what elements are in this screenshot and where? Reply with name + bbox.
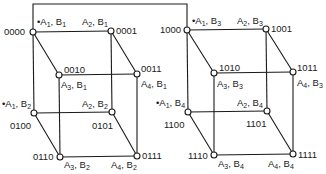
b-index: 1 xyxy=(104,21,108,28)
node-0110 xyxy=(57,154,63,160)
right-cube-edges xyxy=(187,29,293,155)
edge-1000-1001 xyxy=(187,29,266,30)
b-index: 1 xyxy=(163,83,167,90)
code-label-0111: 0111 xyxy=(142,151,162,161)
code-label-0011: 0011 xyxy=(141,64,161,74)
hypercube-diagram: 0000 0001 0010 0011 0100 0101 0110 0111 … xyxy=(0,0,326,174)
edge-0000-0010 xyxy=(33,32,59,75)
code-label-1110: 1110 xyxy=(188,151,208,161)
edge-0101-0111 xyxy=(112,112,137,156)
edge-1100-1101 xyxy=(188,111,267,112)
code-label-1101: 1101 xyxy=(246,119,266,129)
code-label-1111: 1111 xyxy=(298,150,317,160)
edge-1100-1110 xyxy=(188,112,214,155)
b-index: 2 xyxy=(86,164,90,171)
b-index: 3 xyxy=(217,20,221,27)
b-index: 4 xyxy=(290,163,294,170)
state-label-a3-b2: A3, B2 xyxy=(64,160,90,170)
edge-1000-1100 xyxy=(187,30,188,112)
code-label-0101: 0101 xyxy=(92,121,113,131)
edge-0001-0011 xyxy=(111,31,137,74)
code-label-0001: 0001 xyxy=(116,26,137,36)
node-1101 xyxy=(264,108,270,114)
edge-1000-1010 xyxy=(187,30,214,73)
code-label-1000: 1000 xyxy=(160,25,181,35)
b-index: 4 xyxy=(259,102,263,109)
state-label-a3-b3: A3, B3 xyxy=(217,79,243,89)
state-label-a3-b4: A3, B4 xyxy=(218,159,244,169)
edge-1110-1111 xyxy=(214,154,293,155)
edge-0010-0110 xyxy=(59,75,60,157)
node-0000 xyxy=(30,29,36,35)
node-0111 xyxy=(134,153,140,159)
b-index: 4 xyxy=(240,163,244,170)
code-label-0110: 0110 xyxy=(33,152,53,162)
node-0100 xyxy=(31,110,37,116)
node-0011 xyxy=(134,71,140,77)
state-label-a2-b4: A2, B4 xyxy=(237,98,263,108)
node-1100 xyxy=(185,109,191,115)
state-label-a2-b2: A2, B2 xyxy=(82,99,108,109)
code-label-1010: 1010 xyxy=(219,63,240,73)
state-label-a1-b2: •A1, B2 xyxy=(2,99,31,109)
state-label-a4-b2: A4, B2 xyxy=(111,160,137,170)
state-label-a1-b3: •A1, B3 xyxy=(192,16,221,26)
node-0101 xyxy=(109,109,115,115)
b-index: 2 xyxy=(27,103,31,110)
b-index: 2 xyxy=(133,164,137,171)
node-1000 xyxy=(184,27,190,33)
state-label-a2-b3: A2, B3 xyxy=(237,16,263,26)
edge-0000-0100 xyxy=(33,32,34,113)
edge-0000-0001 xyxy=(33,31,111,32)
state-label-a3-b1: A3, B1 xyxy=(61,80,87,90)
state-label-a4-b4: A4, B4 xyxy=(268,159,294,169)
code-label-1001: 1001 xyxy=(271,24,292,34)
node-1001 xyxy=(263,26,269,32)
code-label-1011: 1011 xyxy=(297,63,317,73)
code-label-1100: 1100 xyxy=(164,120,184,130)
b-index: 3 xyxy=(239,83,243,90)
b-index: 3 xyxy=(319,82,323,89)
edge-0001-0101 xyxy=(111,31,112,112)
code-label-0100: 0100 xyxy=(10,121,31,131)
code-label-0010: 0010 xyxy=(64,65,85,75)
state-label-a1-b4: •A1, B4 xyxy=(156,98,185,108)
left-cube-edges xyxy=(33,31,137,157)
state-label-a4-b1: A4, B1 xyxy=(141,79,167,89)
node-0010 xyxy=(56,72,62,78)
state-label-a4-b3: A4, B3 xyxy=(297,78,323,88)
node-0001 xyxy=(108,28,114,34)
edge-1001-1101 xyxy=(266,29,267,111)
b-index: 3 xyxy=(259,20,263,27)
edge-0110-0111 xyxy=(60,156,137,157)
node-1010 xyxy=(211,70,217,76)
b-index: 1 xyxy=(83,84,87,91)
node-1110 xyxy=(211,152,217,158)
edge-1101-1111 xyxy=(267,111,293,154)
state-label-a2-b1: A2, B1 xyxy=(82,17,108,27)
node-1111 xyxy=(290,151,296,157)
b-index: 2 xyxy=(104,103,108,110)
nodes xyxy=(30,26,296,160)
code-label-0000: 0000 xyxy=(4,27,25,37)
b-index: 4 xyxy=(181,102,185,109)
state-label-a1-b1: •A1, B1 xyxy=(37,17,66,27)
node-1011 xyxy=(290,69,296,75)
edge-0100-0101 xyxy=(34,112,112,113)
edge-1001-1011 xyxy=(266,29,293,72)
b-index: 1 xyxy=(62,21,66,28)
